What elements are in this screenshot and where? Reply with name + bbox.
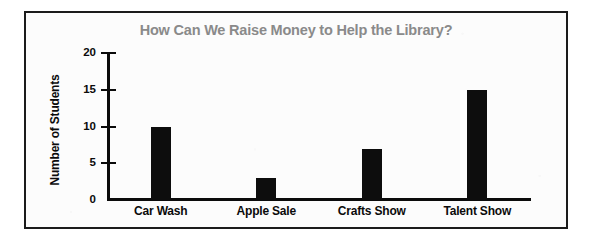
page-title: How Can We Raise Money to Help the Libra…	[24, 22, 568, 38]
bar	[467, 90, 487, 200]
y-axis-label: Number of Students	[48, 60, 66, 200]
x-axis-tick-label: Crafts Show	[312, 204, 432, 218]
x-axis-tick-label: Car Wash	[101, 204, 221, 218]
bar-series	[108, 53, 530, 200]
y-axis-tick-label: 5	[70, 157, 96, 169]
chart-page: How Can We Raise Money to Help the Libra…	[0, 0, 593, 241]
y-axis-tick-label: 20	[70, 47, 96, 59]
x-axis-tick-label: Apple Sale	[206, 204, 326, 218]
y-axis-tick-labels: 05101520	[70, 0, 96, 241]
y-axis-tick-label: 10	[70, 121, 96, 133]
y-axis-tick-label: 0	[70, 194, 96, 206]
x-axis-tick-label: Talent Show	[417, 204, 537, 218]
bar	[256, 178, 276, 200]
bar	[362, 149, 382, 200]
bar	[151, 127, 171, 201]
y-axis-tick-label: 15	[70, 84, 96, 96]
